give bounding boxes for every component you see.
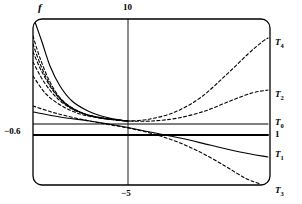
data-series-group bbox=[33, 22, 268, 184]
series-solid-main bbox=[35, 22, 128, 121]
curve-label-t3: T3 bbox=[275, 186, 284, 197]
plot-canvas bbox=[0, 0, 302, 204]
tick-label-bottom: −5 bbox=[121, 189, 131, 198]
curve-label-t4: T4 bbox=[275, 38, 284, 49]
series-t2 bbox=[33, 52, 268, 121]
curve-label-t0: T0 bbox=[275, 118, 284, 129]
series-inner-dashed-b bbox=[33, 62, 128, 121]
series-t4 bbox=[33, 36, 268, 121]
axis-label-f: f bbox=[38, 2, 42, 13]
curve-label-t1: T1 bbox=[275, 150, 284, 161]
tick-label-top: 10 bbox=[123, 3, 132, 12]
tick-label-left: −0.6 bbox=[4, 127, 20, 136]
curve-label-t2: T2 bbox=[275, 90, 284, 101]
figure-container: f 10 −5 −0.6 T4 T2 T0 1 T1 T3 bbox=[0, 0, 302, 204]
curve-label-one: 1 bbox=[275, 130, 280, 139]
plot-frame bbox=[33, 19, 270, 185]
frame-border bbox=[33, 19, 270, 185]
